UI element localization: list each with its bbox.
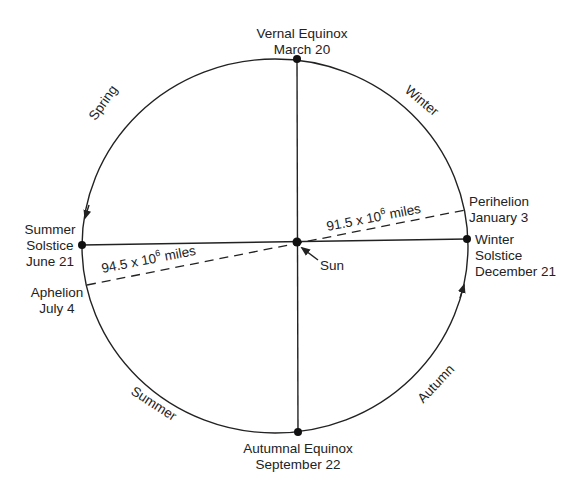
winter-solstice-line1: Winter: [475, 232, 556, 248]
summer-solstice-dot: [78, 241, 86, 249]
perihelion-date: January 3: [469, 210, 529, 226]
perihelion-label: Perihelion January 3: [469, 194, 529, 226]
sun-pointer-arrow: [302, 248, 318, 260]
aphelion-name: Aphelion: [22, 285, 92, 301]
winter-solstice-label: Winter Solstice December 21: [475, 232, 556, 280]
winter-solstice-line2: Solstice: [475, 248, 556, 264]
perihelion-name: Perihelion: [469, 194, 529, 210]
winter-solstice-dot: [463, 235, 471, 243]
autumnal-equinox-name: Autumnal Equinox: [238, 441, 358, 457]
sun-dot: [293, 238, 302, 247]
vernal-equinox-name: Vernal Equinox: [247, 26, 357, 42]
winter-solstice-date: December 21: [475, 264, 556, 280]
solstice-line: [82, 239, 467, 245]
sun-label: Sun: [320, 258, 344, 274]
summer-solstice-date: June 21: [22, 254, 78, 270]
vernal-equinox-date: March 20: [247, 42, 357, 58]
orbit-ellipse: [82, 59, 468, 433]
summer-solstice-label: Summer Solstice June 21: [22, 222, 78, 270]
aphelion-date: July 4: [22, 301, 92, 317]
vernal-equinox-label: Vernal Equinox March 20: [247, 26, 357, 58]
autumnal-equinox-dot: [294, 428, 302, 436]
summer-solstice-line1: Summer: [22, 222, 78, 238]
autumnal-equinox-label: Autumnal Equinox September 22: [238, 441, 358, 473]
autumnal-equinox-date: September 22: [238, 457, 358, 473]
aphelion-label: Aphelion July 4: [22, 285, 92, 317]
summer-solstice-line2: Solstice: [22, 238, 78, 254]
autumn-direction-arrow-icon: [460, 285, 464, 298]
apsides-line: [87, 210, 465, 285]
